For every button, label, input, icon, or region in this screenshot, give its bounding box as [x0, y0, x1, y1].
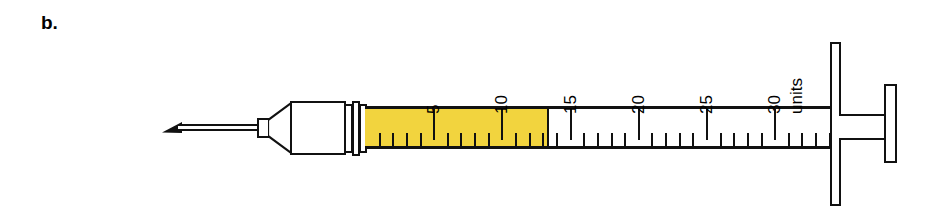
scale-tick-minor — [460, 133, 462, 147]
scale-label-10: 10 — [493, 95, 510, 114]
scale-tick-minor — [788, 133, 790, 147]
scale-tick-minor — [692, 133, 694, 147]
scale-tick-minor — [420, 133, 422, 147]
scale-tick-minor — [583, 133, 585, 147]
scale-tick-minor — [556, 133, 558, 147]
plunger-thumb-rest[interactable] — [884, 84, 897, 163]
scale-tick-minor — [801, 133, 803, 147]
insulin-fill-edge — [547, 109, 549, 146]
scale-tick-minor — [747, 133, 749, 147]
scale-label-30: 30 — [766, 95, 783, 114]
scale-tick-minor — [529, 133, 531, 147]
scale-tick-minor — [733, 133, 735, 147]
needle-hub-body — [290, 101, 346, 155]
scale-tick-minor — [379, 133, 381, 147]
scale-tick-minor — [392, 133, 394, 147]
plunger-rod — [839, 114, 889, 140]
scale-tick-minor — [679, 133, 681, 147]
scale-tick-minor — [815, 133, 817, 147]
scale-tick-minor — [611, 133, 613, 147]
scale-tick-minor — [597, 133, 599, 147]
scale-tick-minor — [474, 133, 476, 147]
needle-shaft — [178, 124, 262, 131]
scale-tick-minor — [488, 133, 490, 147]
scale-tick-minor — [761, 133, 763, 147]
scale-label-5: 5 — [425, 105, 442, 114]
scale-tick-minor — [624, 133, 626, 147]
scale-tick-minor — [651, 133, 653, 147]
scale-tick-minor — [406, 133, 408, 147]
scale-tick-minor — [515, 133, 517, 147]
scale-tick-minor — [665, 133, 667, 147]
panel-label: b. — [41, 13, 58, 32]
syringe-figure: b. 51015202530 units — [0, 0, 947, 223]
scale-label-20: 20 — [630, 95, 647, 114]
scale-tick-minor — [720, 133, 722, 147]
scale-label-15: 15 — [562, 95, 579, 114]
units-label: units — [788, 78, 805, 114]
scale-tick-minor — [447, 133, 449, 147]
scale-tick-minor — [542, 133, 544, 147]
scale-label-25: 25 — [698, 95, 715, 114]
